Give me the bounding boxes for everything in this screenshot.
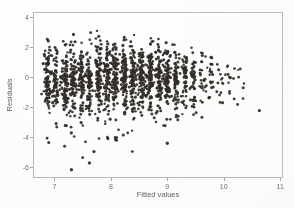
scatter-points-canvas <box>33 12 283 178</box>
x-axis-title: Fitted values <box>137 190 180 199</box>
x-tick-mark <box>224 178 225 181</box>
x-tick-label: 11 <box>277 183 284 190</box>
x-tick-label: 10 <box>220 183 228 190</box>
y-tick-mark <box>30 167 33 168</box>
x-tick-label: 8 <box>109 183 113 190</box>
y-tick-mark <box>30 107 33 108</box>
y-tick-mark <box>30 137 33 138</box>
x-tick-mark <box>54 178 55 181</box>
y-tick-mark <box>30 77 33 78</box>
x-tick-mark <box>111 178 112 181</box>
y-tick-label: -6 <box>17 164 29 171</box>
x-tick-label: 9 <box>165 183 169 190</box>
y-tick-label: -4 <box>17 134 29 141</box>
y-tick-mark <box>30 17 33 18</box>
residuals-vs-fitted-scatter-plot: 7891011 420-2-4-6 Fitted values Residual… <box>0 0 294 208</box>
y-tick-label: 4 <box>17 13 29 20</box>
x-tick-mark <box>280 178 281 181</box>
y-axis-title: Residuals <box>5 79 14 112</box>
plot-area <box>33 12 283 178</box>
y-tick-label: -2 <box>17 104 29 111</box>
y-tick-mark <box>30 47 33 48</box>
x-tick-label: 7 <box>52 183 56 190</box>
y-tick-label: 2 <box>17 43 29 50</box>
y-tick-label: 0 <box>17 73 29 80</box>
x-tick-mark <box>167 178 168 181</box>
